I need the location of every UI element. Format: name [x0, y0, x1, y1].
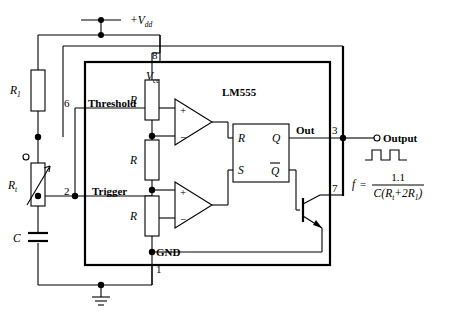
qbar-to-transistor-wire: [289, 170, 300, 210]
capacitor-c: [28, 233, 48, 241]
circuit-diagram: +Vdd 8 Vcc LM555 R1 Rt C R R R 6 Thresho…: [0, 0, 450, 317]
pin-number-8: 8: [152, 49, 158, 61]
divider-resistor-bottom: [145, 196, 159, 236]
resistor-r1: [31, 70, 45, 111]
output-terminal-label: Output: [383, 132, 418, 144]
r1-label: R1: [9, 84, 21, 99]
formula-denominator: C(Rt+2R1): [374, 187, 423, 202]
comparator-top: [152, 99, 233, 145]
pin-number-6: 6: [64, 97, 70, 109]
divider-resistor-middle: [145, 140, 159, 180]
comparator-bottom-plus: +: [180, 186, 186, 198]
divider-r-bottom-label: R: [129, 210, 137, 222]
divider-resistor-top: [145, 80, 159, 120]
rt-label: Rt: [7, 179, 18, 194]
pin-number-1: 1: [156, 263, 162, 275]
comparator-bottom: [152, 170, 233, 228]
formula-numerator: 1.1: [391, 171, 405, 183]
square-wave-icon: [365, 150, 407, 160]
flipflop-q-label: Q: [272, 132, 281, 144]
trigger-label: Trigger: [92, 185, 127, 197]
pin-number-3: 3: [332, 124, 338, 136]
capacitor-ground-wires: [38, 227, 152, 285]
comparator-top-minus: −: [180, 131, 186, 143]
ic-label: LM555: [222, 86, 257, 98]
lm555-package-box: [85, 62, 330, 265]
frequency-formula: f = 1.1 C(Rt+2R1): [352, 171, 424, 202]
pin-number-7: 7: [332, 182, 338, 194]
formula-equals: =: [360, 178, 366, 190]
flipflop-r-label: R: [237, 132, 245, 144]
formula-lhs: f: [352, 178, 357, 191]
pin-number-2: 2: [64, 185, 70, 197]
supply-label: +Vdd: [130, 14, 153, 29]
comparator-bottom-minus: −: [180, 213, 186, 225]
capacitor-label: C: [13, 232, 21, 244]
junction-dots: [35, 17, 346, 288]
discharge-transistor: [303, 195, 343, 252]
output-terminal: [374, 135, 380, 141]
flipflop-s-label: S: [238, 164, 244, 176]
threshold-label: Threshold: [88, 97, 136, 109]
gnd-label: GND: [156, 246, 181, 258]
threshold-wire: [75, 108, 152, 196]
comparator-top-plus: +: [180, 104, 186, 116]
divider-r-middle-label: R: [129, 154, 137, 166]
out-label: Out: [296, 124, 315, 136]
flipflop-qbar-label: Q: [271, 165, 280, 177]
